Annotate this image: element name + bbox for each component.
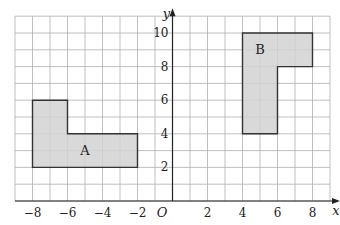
x-tick-label: 2 xyxy=(204,206,212,220)
y-tick-label: 4 xyxy=(161,127,169,141)
x-tick-label: 8 xyxy=(309,206,317,220)
shape-label-a: A xyxy=(79,143,90,158)
x-tick-label: −6 xyxy=(59,206,77,220)
y-axis-label: y xyxy=(162,6,171,21)
x-tick-label: −4 xyxy=(94,206,112,220)
y-tick-label: 10 xyxy=(153,26,168,40)
y-tick-label: 8 xyxy=(161,60,169,74)
shape-label-b: B xyxy=(255,42,265,57)
y-axis-arrow-icon xyxy=(170,8,176,16)
y-tick-label: 6 xyxy=(161,93,169,107)
x-axis-label: x xyxy=(332,203,340,218)
x-tick-label: −2 xyxy=(129,206,147,220)
x-tick-label: 6 xyxy=(274,206,282,220)
x-tick-label: 4 xyxy=(239,206,247,220)
y-tick-label: 2 xyxy=(161,160,169,174)
coordinate-grid-diagram: AB −8−6−4−22468246810Oxy xyxy=(0,0,340,225)
origin-label: O xyxy=(157,205,168,220)
x-tick-label: −8 xyxy=(24,206,42,220)
